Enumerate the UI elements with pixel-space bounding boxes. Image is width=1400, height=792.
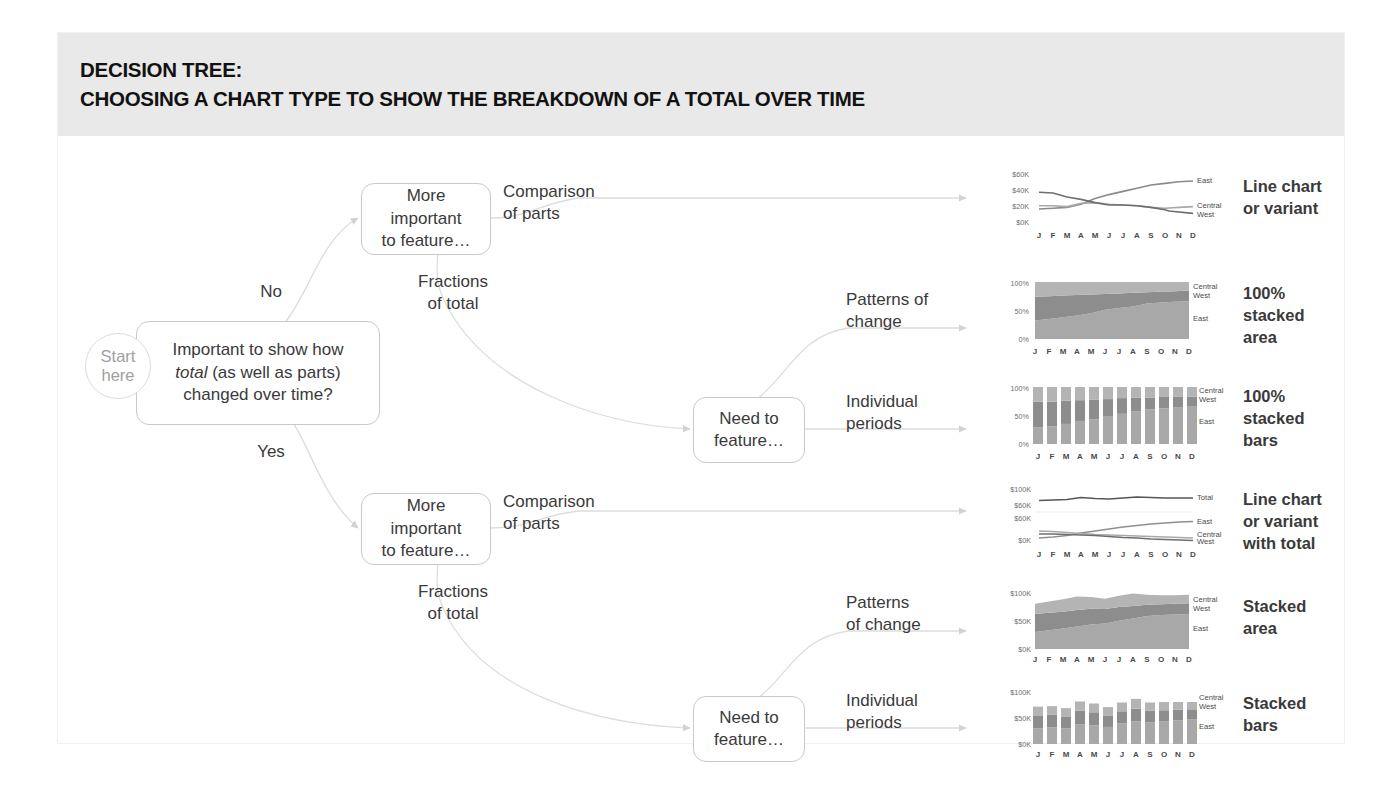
node-more-important-bottom[interactable]: More important to feature…	[361, 493, 491, 565]
svg-text:M: M	[1063, 750, 1070, 759]
svg-text:A: A	[1133, 452, 1139, 461]
start-here-badge: Start here	[85, 333, 151, 399]
node-root-question[interactable]: Important to show how total (as well as …	[136, 321, 380, 425]
svg-text:N: N	[1175, 452, 1181, 461]
svg-text:J: J	[1033, 347, 1037, 356]
thumbnail-stacked-bars: $100K $50K $0K	[983, 681, 1233, 771]
node-need-to-feature-bottom[interactable]: Need to feature…	[693, 696, 805, 762]
svg-text:M: M	[1064, 550, 1071, 559]
svg-text:East: East	[1199, 722, 1215, 731]
diagram-canvas: Start here Important to show how total (…	[58, 136, 1344, 745]
nf-top-line-2: feature…	[714, 430, 784, 452]
svg-text:F: F	[1050, 452, 1055, 461]
svg-text:D: D	[1186, 655, 1192, 664]
edge-label-comparison-top: Comparison of parts	[503, 181, 643, 225]
svg-text:West: West	[1199, 395, 1217, 404]
svg-text:J: J	[1106, 452, 1110, 461]
svg-text:A: A	[1078, 550, 1084, 559]
svg-text:$20K: $20K	[1012, 202, 1029, 211]
outcome-stacked-bars: Stacked bars	[1243, 693, 1306, 737]
svg-text:West: West	[1193, 604, 1211, 613]
svg-text:0%: 0%	[1019, 440, 1030, 449]
svg-text:West: West	[1199, 702, 1217, 711]
svg-text:50%: 50%	[1015, 307, 1030, 316]
svg-text:West: West	[1193, 291, 1211, 300]
svg-text:$0K: $0K	[1018, 536, 1031, 545]
outcome-line-chart-with-total: Line chart or variant with total	[1243, 489, 1322, 555]
svg-text:O: O	[1162, 550, 1168, 559]
svg-text:A: A	[1077, 750, 1083, 759]
svg-text:M: M	[1092, 550, 1099, 559]
svg-text:East: East	[1199, 417, 1215, 426]
thumbnail-line-chart: $60K $40K $20K $0K East Central West JFM…	[983, 166, 1233, 246]
svg-text:J: J	[1103, 347, 1107, 356]
edge-label-yes: Yes	[236, 441, 306, 463]
svg-text:100%: 100%	[1011, 384, 1030, 393]
root-line-2: total (as well as parts)	[172, 362, 343, 384]
svg-text:$50K: $50K	[1014, 617, 1031, 626]
svg-text:D: D	[1190, 231, 1196, 240]
svg-text:O: O	[1158, 655, 1164, 664]
svg-text:M: M	[1088, 347, 1095, 356]
svg-text:D: D	[1190, 550, 1196, 559]
svg-text:O: O	[1158, 347, 1164, 356]
svg-text:J: J	[1121, 231, 1125, 240]
nf-bot-line-1: Need to	[714, 707, 784, 729]
svg-text:Total: Total	[1197, 493, 1213, 502]
title-line-1: DECISION TREE:	[80, 55, 865, 84]
svg-text:$100K: $100K	[1010, 485, 1031, 494]
svg-text:A: A	[1074, 655, 1080, 664]
start-line-2: here	[101, 366, 136, 385]
svg-text:A: A	[1077, 452, 1083, 461]
svg-text:O: O	[1161, 452, 1167, 461]
svg-text:J: J	[1037, 231, 1041, 240]
svg-text:D: D	[1189, 750, 1195, 759]
svg-text:$100K: $100K	[1010, 589, 1031, 598]
node-need-to-feature-top[interactable]: Need to feature…	[693, 397, 805, 463]
title-line-2: CHOOSING A CHART TYPE TO SHOW THE BREAKD…	[80, 84, 865, 113]
root-line-2-rest: (as well as parts)	[207, 363, 340, 382]
svg-text:J: J	[1117, 655, 1121, 664]
svg-text:M: M	[1091, 452, 1098, 461]
root-line-1: Important to show how	[172, 339, 343, 361]
svg-text:$60K: $60K	[1014, 501, 1031, 510]
svg-text:F: F	[1047, 655, 1052, 664]
svg-text:50%: 50%	[1015, 412, 1030, 421]
svg-text:J: J	[1103, 655, 1107, 664]
svg-text:Central: Central	[1197, 201, 1222, 210]
svg-text:J: J	[1121, 550, 1125, 559]
edge-label-fractions-bottom: Fractions of total	[388, 581, 518, 625]
svg-text:A: A	[1134, 231, 1140, 240]
svg-text:$50K: $50K	[1014, 714, 1031, 723]
outcome-line-chart-or-variant: Line chart or variant	[1243, 176, 1322, 220]
svg-text:A: A	[1078, 231, 1084, 240]
edge-label-individual-top: Individual periods	[846, 391, 971, 435]
svg-text:West: West	[1197, 210, 1215, 219]
svg-text:M: M	[1088, 655, 1095, 664]
svg-text:East: East	[1197, 176, 1213, 185]
svg-text:$0K: $0K	[1018, 645, 1031, 654]
svg-text:M: M	[1063, 452, 1070, 461]
outcome-stacked-area: Stacked area	[1243, 596, 1306, 640]
nf-top-line-1: Need to	[714, 408, 784, 430]
thumbnail-100-stacked-bars: 100% 50% 0%	[983, 379, 1233, 469]
svg-text:N: N	[1172, 347, 1178, 356]
thumbnail-100-stacked-area: 100% 50% 0% Central West East JFM AMJ JA…	[983, 274, 1233, 364]
page-title: DECISION TREE: CHOOSING A CHART TYPE TO …	[80, 55, 865, 113]
svg-text:N: N	[1172, 655, 1178, 664]
svg-text:$0K: $0K	[1016, 218, 1029, 227]
svg-text:$0K: $0K	[1018, 740, 1031, 749]
svg-text:East: East	[1193, 314, 1209, 323]
svg-text:East: East	[1197, 517, 1213, 526]
svg-text:$100K: $100K	[1010, 688, 1031, 697]
svg-text:Central: Central	[1193, 595, 1218, 604]
svg-text:M: M	[1060, 347, 1067, 356]
svg-text:D: D	[1186, 347, 1192, 356]
edge-label-comparison-bottom: Comparison of parts	[503, 491, 643, 535]
node-more-important-top[interactable]: More important to feature…	[361, 183, 491, 255]
svg-text:J: J	[1106, 750, 1110, 759]
svg-text:S: S	[1147, 750, 1153, 759]
svg-text:J: J	[1117, 347, 1121, 356]
svg-text:East: East	[1193, 624, 1209, 633]
svg-text:J: J	[1037, 550, 1041, 559]
